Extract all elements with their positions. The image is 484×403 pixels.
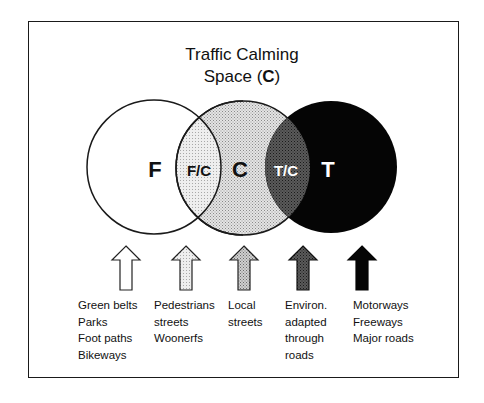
arrow-up-icon-t	[348, 246, 376, 290]
region-label-t: T	[321, 157, 334, 183]
arrow-up-icon-f	[112, 246, 140, 290]
arrow-up-icon-c	[230, 246, 258, 290]
column-c-examples: Local streets	[228, 297, 263, 330]
column-f-examples: Green belts Parks Foot paths Bikeways	[78, 297, 137, 363]
region-label-tc: T/C	[274, 162, 298, 179]
arrow-up-icon-tc	[289, 246, 317, 290]
region-label-fc: F/C	[187, 162, 211, 179]
column-fc-examples: Pedestrians streets Woonerfs	[154, 297, 215, 347]
arrow-up-icon-fc	[172, 246, 200, 290]
column-t-examples: Motorways Freeways Major roads	[353, 297, 414, 347]
region-label-f: F	[148, 157, 161, 183]
column-tc-examples: Environ. adapted through roads	[285, 297, 327, 363]
region-label-c: C	[232, 157, 248, 183]
